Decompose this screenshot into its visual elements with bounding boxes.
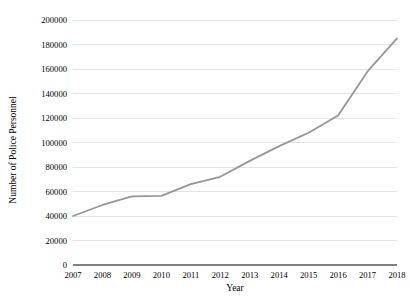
x-axis-tick-label: 2012 [212,270,229,280]
x-axis-tick-label: 2010 [153,270,170,280]
y-axis-tick-label: 180000 [41,40,67,50]
y-axis-title: Number of Police Personnel [8,96,18,204]
gridlines [73,20,397,241]
line-chart: 0200004000060000800001000001200001400001… [0,0,410,305]
x-axis-tick-label: 2015 [300,270,317,280]
y-axis-tick-label: 40000 [46,211,67,221]
x-axis-tick-label: 2007 [64,270,82,280]
x-axis-tick-label: 2011 [182,270,199,280]
y-axis-tick-labels: 0200004000060000800001000001200001400001… [41,15,67,270]
y-axis-tick-label: 60000 [46,187,67,197]
police-personnel-line [73,38,397,216]
chart-container: 0200004000060000800001000001200001400001… [0,0,410,305]
x-axis-tick-label: 2009 [123,270,140,280]
x-axis-tick-label: 2017 [359,270,377,280]
x-axis-tick-label: 2018 [388,270,405,280]
y-axis-tick-label: 80000 [46,162,67,172]
x-axis-tick-label: 2014 [271,270,289,280]
x-axis-title: Year [226,283,244,293]
x-axis-tick-label: 2008 [94,270,111,280]
y-axis-tick-label: 0 [63,260,67,270]
x-axis-tick-label: 2016 [329,270,347,280]
y-axis-tick-label: 160000 [41,64,67,74]
y-axis-tick-label: 140000 [41,89,67,99]
y-axis-tick-label: 200000 [41,15,67,25]
x-axis-tick-labels: 2007200820092010201120122013201420152016… [64,270,405,280]
y-axis-tick-label: 100000 [41,138,67,148]
y-axis-tick-label: 120000 [41,113,67,123]
y-axis-tick-label: 20000 [46,236,67,246]
x-axis-tick-label: 2013 [241,270,258,280]
